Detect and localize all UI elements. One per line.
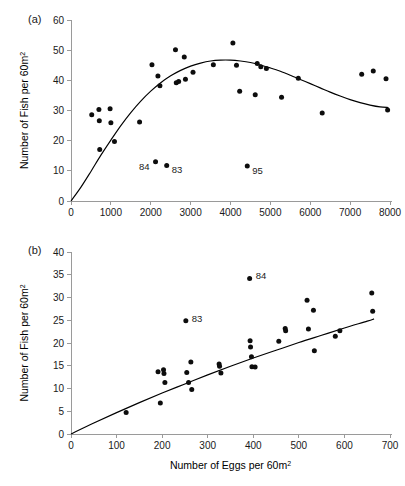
y-tick-label-a: 50 (53, 45, 65, 56)
data-point-b (162, 380, 167, 385)
data-point-a (112, 139, 117, 144)
data-point-b (306, 326, 311, 331)
data-point-a (230, 40, 235, 45)
figure-container: (a)0100020003000400050006000700080000102… (0, 0, 405, 486)
x-tick-label-b: 0 (68, 440, 74, 451)
y-tick-label-b: 20 (53, 338, 65, 349)
x-tick-label-a: 1000 (100, 207, 123, 218)
panel-a-chart: (a)0100020003000400050006000700080000102… (0, 0, 405, 243)
x-axis-title-b: Number of Eggs per 60m2 (170, 459, 291, 471)
data-point-b (188, 360, 193, 365)
y-tick-label-a: 40 (53, 75, 65, 86)
data-point-a (97, 118, 102, 123)
data-point-a (264, 66, 269, 71)
data-point-a (173, 47, 178, 52)
data-point-a (157, 83, 162, 88)
y-tick-label-a: 30 (53, 105, 65, 116)
data-point-a (384, 76, 389, 81)
data-point-b (370, 309, 375, 314)
y-tick-label-b: 40 (53, 247, 65, 258)
data-point-a (385, 107, 390, 112)
data-point-b (124, 410, 129, 415)
panel-b-chart: (b)0100200300400500600700051015202530354… (0, 230, 405, 486)
y-axis-title-a: Number of Fish per 60m2 (18, 52, 30, 169)
x-tick-label-b: 500 (291, 440, 308, 451)
data-point-b (311, 308, 316, 313)
data-point-b (189, 387, 194, 392)
data-point-b (248, 338, 253, 343)
x-tick-label-a: 7000 (339, 207, 362, 218)
data-point-a (89, 112, 94, 117)
x-tick-label-b: 700 (382, 440, 399, 451)
data-point-a (296, 76, 301, 81)
point-annotation-a: 95 (252, 165, 263, 176)
data-point-a (234, 63, 239, 68)
data-point-a (137, 119, 142, 124)
data-point-a (258, 64, 263, 69)
data-point-b (218, 371, 223, 376)
data-point-b (253, 365, 258, 370)
x-tick-label-b: 300 (199, 440, 216, 451)
y-tick-label-b: 5 (58, 406, 64, 417)
x-tick-label-b: 400 (245, 440, 262, 451)
y-tick-label-b: 0 (58, 429, 64, 440)
data-point-b (333, 334, 338, 339)
data-point-a (191, 70, 196, 75)
data-point-b (217, 364, 222, 369)
data-point-a (183, 77, 188, 82)
data-point-a (182, 55, 187, 60)
fit-curve-b (71, 319, 374, 434)
x-tick-label-a: 6000 (299, 207, 322, 218)
x-tick-label-a: 3000 (180, 207, 203, 218)
data-point-b (156, 369, 161, 374)
panel-tag-a: (a) (28, 13, 41, 25)
point-annotation-a: 84 (139, 161, 150, 172)
data-point-a (359, 72, 364, 77)
data-point-b (184, 370, 189, 375)
data-point-a (279, 95, 284, 100)
x-tick-label-a: 8000 (379, 207, 402, 218)
data-point-b (249, 354, 254, 359)
y-tick-label-a: 10 (53, 165, 65, 176)
data-point-a (237, 89, 242, 94)
x-tick-label-b: 100 (108, 440, 125, 451)
x-tick-label-b: 200 (154, 440, 171, 451)
point-annotation-a: 83 (172, 164, 183, 175)
y-tick-label-b: 35 (53, 269, 65, 280)
y-tick-label-a: 0 (58, 196, 64, 207)
data-point-a (153, 159, 158, 164)
point-annotation-b: 83 (192, 313, 203, 324)
data-point-a (245, 164, 250, 169)
x-tick-label-a: 5000 (259, 207, 282, 218)
data-point-a (320, 110, 325, 115)
data-point-b (186, 380, 191, 385)
data-point-b (369, 290, 374, 295)
data-point-b (283, 328, 288, 333)
y-tick-label-a: 20 (53, 135, 65, 146)
y-axis-title-b: Number of Fish per 60m2 (18, 284, 30, 401)
data-point-b (161, 371, 166, 376)
point-annotation-b: 84 (256, 270, 267, 281)
y-tick-label-b: 15 (53, 360, 65, 371)
data-point-b (247, 276, 252, 281)
data-point-b (248, 345, 253, 350)
y-tick-label-b: 25 (53, 315, 65, 326)
data-point-a (176, 79, 181, 84)
data-point-a (149, 62, 154, 67)
data-point-a (164, 163, 169, 168)
data-point-a (155, 74, 160, 79)
data-point-b (183, 318, 188, 323)
data-point-b (305, 298, 310, 303)
x-tick-label-a: 4000 (219, 207, 242, 218)
data-point-a (371, 68, 376, 73)
data-point-a (253, 92, 258, 97)
data-point-a (96, 107, 101, 112)
y-tick-label-a: 60 (53, 15, 65, 26)
x-tick-label-a: 2000 (140, 207, 163, 218)
data-point-a (108, 120, 113, 125)
x-tick-label-b: 600 (336, 440, 353, 451)
y-tick-label-b: 10 (53, 383, 65, 394)
data-point-b (158, 401, 163, 406)
data-point-a (211, 62, 216, 67)
data-point-b (337, 328, 342, 333)
